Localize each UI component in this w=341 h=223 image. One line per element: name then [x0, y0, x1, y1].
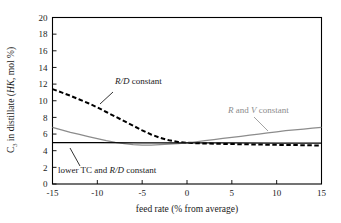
y-title-suffix: , mol %): [6, 47, 17, 80]
y-title-middle: in distillate (: [6, 93, 17, 143]
annotation-r-and-v-constant: R and V constant: [227, 105, 289, 115]
annotation-lowertc-tail: constant: [124, 165, 157, 175]
x-axis-title: feed rate (% from average): [136, 204, 238, 215]
line-chart: 02468101214161820 -15-10-5051015 R/D con…: [0, 0, 341, 223]
annotation-lower-tc: lower TC and R/D constant: [58, 165, 157, 175]
x-tick-label: 5: [230, 188, 235, 198]
x-tick-label: -5: [138, 188, 146, 198]
annotation-rd-italic: R/D: [114, 76, 130, 86]
x-tick-label: 15: [317, 188, 327, 198]
annotation-rd-constant: R/D constant: [114, 76, 162, 86]
y-title-italic: HK: [6, 79, 16, 94]
y-tick-label: 16: [39, 46, 49, 56]
x-tick-label: -10: [91, 188, 103, 198]
annotation-lowertc-italic: R/D: [109, 165, 125, 175]
series-line-2: [53, 143, 322, 144]
y-tick-label: 8: [43, 113, 48, 123]
y-tick-label: 18: [39, 29, 49, 39]
y-tick-label: 10: [39, 96, 49, 106]
y-tick-label: 2: [43, 163, 48, 173]
x-tick-label: 0: [185, 188, 190, 198]
annotation-rd-plain: constant: [130, 76, 163, 86]
annotation-rv-and: and: [234, 105, 252, 115]
annotation-rv-constant: constant: [257, 105, 290, 115]
x-tick-label: 10: [272, 188, 282, 198]
y-tick-label: 14: [39, 63, 49, 73]
y-tick-label: 20: [39, 13, 49, 23]
chart-figure: 02468101214161820 -15-10-5051015 R/D con…: [0, 0, 341, 223]
y-axis-title: C3 in distillate (HK, mol %): [6, 47, 18, 153]
y-tick-label: 12: [39, 79, 48, 89]
y-tick-label: 6: [43, 129, 48, 139]
y-tick-label: 4: [43, 146, 48, 156]
x-tick-label: -15: [47, 188, 59, 198]
annotation-lowertc-lead: lower TC and: [58, 165, 110, 175]
